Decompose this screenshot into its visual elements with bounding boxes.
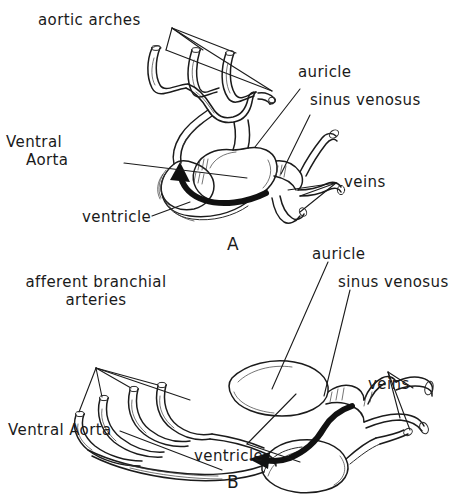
label-veins-b: veins: [368, 376, 410, 393]
label-ventral-aorta-a-line1: Ventral: [6, 134, 62, 151]
afferent-arteries-leaders: [79, 368, 190, 412]
ventral-aorta-limb-a: [173, 110, 212, 164]
panel-letter-a: A: [227, 234, 239, 254]
label-ventricle-b: ventricle: [194, 448, 263, 465]
veins-a: [272, 128, 345, 223]
blood-flow-arrow-b: [249, 406, 352, 469]
label-auricle-b: auricle: [312, 246, 365, 263]
label-veins-a: veins: [344, 174, 386, 191]
ventral-aorta-a: [186, 84, 256, 150]
aortic-arch-4: [258, 93, 275, 104]
panel-letter-b: B: [227, 472, 239, 492]
label-aortic-arches-a: aortic arches: [38, 12, 141, 29]
panel-a-label-leaders: [124, 89, 336, 216]
label-ventral-aorta-b: Ventral Aorta: [8, 422, 112, 439]
figure-root: aortic arches Ventral Aorta ventricle au…: [0, 0, 449, 500]
blood-flow-arrow-a: [170, 162, 266, 203]
label-afferent-branchial-arteries-line2: arteries: [10, 292, 182, 309]
label-sinus-venosus-b: sinus venosus: [338, 274, 449, 291]
auricle-chamber-b: [229, 361, 328, 416]
label-auricle-a: auricle: [298, 64, 351, 81]
panel-a-artwork: [124, 28, 345, 223]
label-ventricle-a: ventricle: [82, 209, 151, 226]
sinus-venosus-a: [274, 161, 302, 190]
label-ventral-aorta-a-line2: Aorta: [26, 152, 68, 169]
aortic-arch-3: [222, 51, 256, 103]
aortic-arch-1: [148, 46, 188, 94]
label-afferent-branchial-arteries-line1: afferent branchial: [10, 274, 182, 291]
afferent-artery-4: [157, 382, 212, 439]
aortic-arches-leaders: [166, 28, 272, 91]
label-sinus-venosus-a: sinus venosus: [310, 92, 421, 109]
